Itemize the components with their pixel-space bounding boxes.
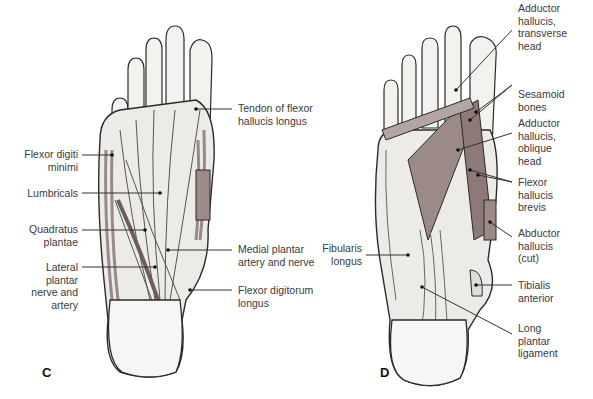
label-medial-plantar-artery-nerve: Medial plantar artery and nerve bbox=[238, 243, 314, 268]
label-quadratus-plantae: Quadratus plantae bbox=[0, 223, 78, 248]
label-flexor-hallucis-brevis: Flexor hallucis brevis bbox=[518, 176, 553, 214]
abductor-cut-end bbox=[484, 200, 496, 240]
panel-c-plantar-layer-2: Flexor digiti minimi Lumbricals Quadratu… bbox=[0, 0, 320, 399]
panel-d-plantar-layer-3: Adductor hallucis, transverse head Sesam… bbox=[320, 0, 593, 399]
label-tibialis-anterior: Tibialis anterior bbox=[518, 279, 554, 304]
muscle-cut-end bbox=[196, 170, 210, 220]
heel-bone bbox=[391, 320, 468, 386]
label-fibularis-longus: Fibularis longus bbox=[320, 242, 362, 267]
panel-letter-c: C bbox=[42, 365, 51, 380]
label-abductor-hallucis-cut: Abductor hallucis (cut) bbox=[518, 227, 560, 265]
label-lumbricals: Lumbricals bbox=[0, 187, 78, 200]
label-flexor-digiti-minimi: Flexor digiti minimi bbox=[0, 148, 78, 173]
foot-illustration-c bbox=[0, 0, 320, 399]
label-tendon-flexor-hallucis-longus: Tendon of flexor hallucis longus bbox=[238, 102, 313, 127]
label-adductor-hallucis-oblique: Adductor hallucis, oblique head bbox=[518, 117, 560, 167]
panel-letter-d: D bbox=[380, 365, 389, 380]
label-sesamoid-bones: Sesamoid bones bbox=[518, 88, 565, 113]
label-flexor-digitorum-longus: Flexor digitorum longus bbox=[238, 284, 313, 309]
heel-bone bbox=[109, 300, 183, 377]
label-adductor-hallucis-transverse: Adductor hallucis, transverse head bbox=[518, 2, 567, 52]
label-long-plantar-ligament: Long plantar ligament bbox=[518, 322, 558, 360]
label-lateral-plantar-nerve-artery: Lateral plantar nerve and artery bbox=[0, 261, 78, 311]
